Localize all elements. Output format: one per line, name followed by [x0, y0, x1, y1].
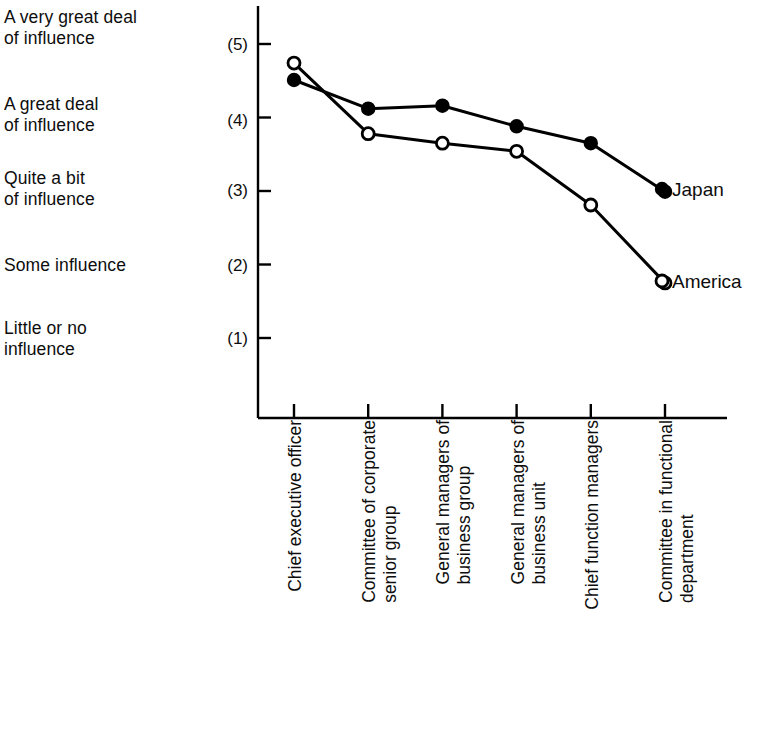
x-category-label-4: Chief function managers [582, 420, 603, 610]
x-axis-category-labels: Chief executive officerCommittee of corp… [0, 420, 772, 720]
series-markers [288, 57, 671, 289]
plot-area [0, 0, 772, 430]
legend-marker-america [656, 275, 668, 287]
y-axis-ticks [258, 44, 271, 338]
data-point-japan-0 [288, 74, 300, 86]
x-category-label-2: General managers of business group [433, 420, 475, 584]
data-point-japan-4 [585, 137, 597, 149]
series-line-america [294, 63, 665, 283]
data-point-america-1 [362, 128, 374, 140]
chart-figure: A very great deal of influence A great d… [0, 0, 772, 741]
data-point-america-3 [511, 145, 523, 157]
x-axis-ticks [294, 404, 665, 418]
series-label-america: America [672, 272, 742, 291]
x-category-label-3: General managers of business unit [508, 420, 550, 584]
series-lines [294, 63, 665, 283]
x-category-label-0: Chief executive officer [285, 420, 306, 592]
data-point-japan-2 [436, 100, 448, 112]
x-category-label-5: Committee in functional department [656, 420, 698, 603]
data-point-japan-1 [362, 103, 374, 115]
series-line-japan [294, 80, 665, 192]
data-point-america-2 [436, 137, 448, 149]
data-point-america-4 [585, 199, 597, 211]
x-category-label-1: Committee of corporate senior group [359, 420, 401, 603]
data-point-japan-3 [510, 120, 522, 132]
legend-marker-japan [656, 183, 668, 195]
series-label-japan: Japan [672, 180, 724, 199]
data-point-america-0 [288, 57, 300, 69]
